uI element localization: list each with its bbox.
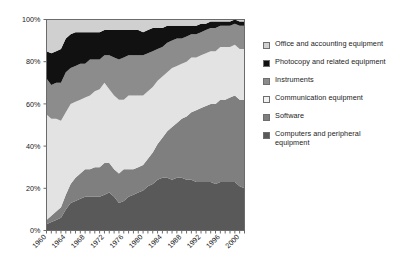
legend-item-label: Office and accounting equipment (275, 40, 383, 49)
x-axis-tick-label: 2000 (223, 233, 241, 251)
x-axis-tick-label: 1960 (30, 233, 48, 251)
legend-item-label: Photocopy and related equipment (275, 58, 386, 67)
legend-item: Computers and peripheral equipment (263, 130, 396, 147)
x-axis-tick-label: 1964 (50, 233, 68, 251)
x-axis-tick-label: 1984 (146, 233, 164, 251)
legend-item: Instruments (263, 76, 396, 85)
x-axis-tick-labels: 1960196419681972197619801984198819921996… (30, 233, 241, 251)
x-axis-tick-label: 1976 (108, 233, 126, 251)
x-axis-tick-label: 1968 (69, 233, 87, 251)
y-axis-tick-label: 20% (26, 184, 41, 193)
chart-areas (47, 20, 245, 231)
x-axis-tick-label: 1972 (88, 233, 106, 251)
chart-legend: Office and accounting equipmentPhotocopy… (263, 40, 396, 156)
x-axis-tick-label: 1980 (127, 233, 145, 251)
legend-item-label: Instruments (275, 76, 314, 85)
y-axis-tick-label: 40% (26, 142, 41, 151)
figure-container: 0%20%40%60%80%100% 196019641968197219761… (0, 0, 398, 267)
legend-item-label: Communication equipment (275, 94, 363, 103)
x-axis-tick-label: 1992 (185, 233, 203, 251)
x-axis-tick-label: 1988 (165, 233, 183, 251)
y-axis-tick-label: 80% (26, 57, 41, 66)
legend-item-label: Computers and peripheral equipment (275, 130, 396, 147)
legend-swatch-software (263, 114, 270, 121)
legend-swatch-communication-equipment (263, 96, 270, 103)
legend-item: Communication equipment (263, 94, 396, 103)
y-axis-tick-label: 100% (22, 15, 41, 24)
y-axis-tick-label: 60% (26, 100, 41, 109)
legend-item-label: Software (275, 112, 304, 121)
legend-swatch-instruments (263, 78, 270, 85)
legend-swatch-office-and-accounting-equipment (263, 42, 270, 49)
legend-item: Office and accounting equipment (263, 40, 396, 49)
legend-item: Photocopy and related equipment (263, 58, 396, 67)
legend-swatch-computers-and-peripheral-equipment (263, 132, 270, 139)
legend-item: Software (263, 112, 396, 121)
y-axis-tick-labels: 0%20%40%60%80%100% (22, 15, 41, 235)
legend-swatch-photocopy-and-related-equipment (263, 60, 270, 67)
x-axis-tick-label: 1996 (204, 233, 222, 251)
